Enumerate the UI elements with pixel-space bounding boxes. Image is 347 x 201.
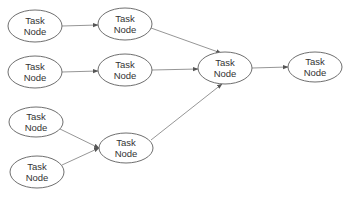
node-label-line2: Node (26, 172, 49, 183)
node-label-line2: Node (304, 67, 327, 78)
node-label-line2: Node (114, 70, 137, 81)
edge-arrow-n8-to-n9 (252, 67, 288, 68)
edge-arrow-n3-to-n4 (62, 71, 98, 72)
edge-arrow-n2-to-n8 (151, 28, 221, 53)
node-label-line1: Task (27, 161, 47, 172)
node-label-line1: Task (25, 61, 45, 72)
task-node-n3: TaskNode (8, 56, 62, 88)
node-label-line1: Task (116, 137, 136, 148)
edge-arrow-n5-to-n7 (60, 129, 99, 148)
task-node-n9: TaskNode (288, 52, 342, 82)
edge-arrow-n7-to-n8 (151, 84, 222, 140)
task-node-n8: TaskNode (198, 52, 252, 84)
node-label-line2: Node (114, 24, 137, 35)
node-label-line1: Task (215, 57, 235, 68)
task-node-n5: TaskNode (9, 107, 63, 137)
edge-arrow-n6-to-n7 (62, 148, 99, 165)
task-node-n1: TaskNode (8, 10, 62, 42)
task-dependency-diagram: TaskNodeTaskNodeTaskNodeTaskNodeTaskNode… (0, 0, 347, 201)
task-node-n6: TaskNode (10, 156, 64, 188)
node-label-line2: Node (24, 26, 47, 37)
task-node-n2: TaskNode (98, 8, 152, 40)
node-label-line1: Task (115, 13, 135, 24)
edge-arrow-n1-to-n2 (62, 25, 98, 26)
node-label-line2: Node (214, 68, 237, 79)
node-label-line1: Task (115, 59, 135, 70)
edge-arrow-n4-to-n8 (152, 69, 198, 70)
nodes-layer: TaskNodeTaskNodeTaskNodeTaskNodeTaskNode… (8, 8, 342, 188)
node-label-line2: Node (24, 72, 47, 83)
node-label-line1: Task (305, 56, 325, 67)
edges-layer (60, 25, 288, 165)
node-label-line2: Node (115, 148, 138, 159)
task-node-n4: TaskNode (98, 54, 152, 86)
node-label-line1: Task (26, 111, 46, 122)
task-node-n7: TaskNode (99, 133, 153, 163)
node-label-line1: Task (25, 15, 45, 26)
node-label-line2: Node (25, 122, 48, 133)
